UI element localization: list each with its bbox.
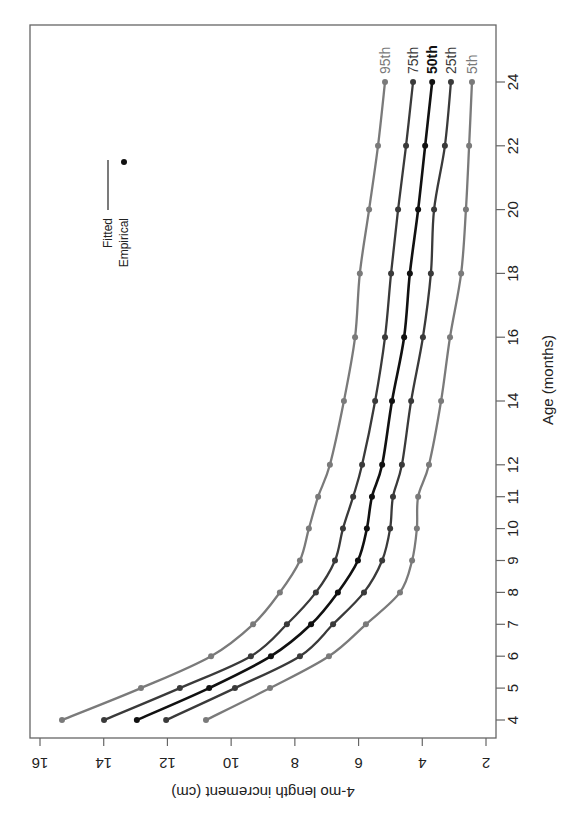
empirical-point-50th [268,653,274,659]
empirical-point-25th [448,79,454,85]
x-tick-label: 22 [504,137,521,154]
empirical-point-95th [327,462,333,468]
empirical-point-5th [463,207,469,213]
empirical-point-25th [431,207,437,213]
empirical-point-75th [359,462,365,468]
empirical-point-95th [297,558,303,564]
empirical-point-95th [341,398,347,404]
fitted-line-5th [206,82,472,720]
percentile-chart: 246810121416 456789101112141618202224 95… [0,0,567,824]
x-tick-label: 4 [504,716,521,724]
y-tick-label: 6 [354,755,362,772]
empirical-point-95th [366,207,372,213]
empirical-point-95th [375,143,381,149]
empirical-point-75th [388,270,394,276]
empirical-point-5th [447,334,453,340]
series-layer [59,79,475,723]
x-tick-label: 9 [504,556,521,564]
empirical-point-5th [438,398,444,404]
empirical-point-25th [399,462,405,468]
x-tick-label: 24 [504,74,521,91]
empirical-point-75th [403,143,409,149]
empirical-point-50th [206,685,212,691]
empirical-point-75th [410,79,416,85]
empirical-point-95th [357,270,363,276]
empirical-point-95th [277,589,283,595]
y-axis-title: 4-mo length increment (cm) [171,784,354,801]
empirical-point-50th [308,621,314,627]
legend-fitted-label: Fitted [101,218,115,248]
empirical-point-25th [420,334,426,340]
empirical-point-25th [297,653,303,659]
x-axis-title: Age (months) [539,335,556,425]
empirical-point-25th [428,270,434,276]
empirical-point-5th [363,621,369,627]
y-tick-label: 4 [418,755,426,772]
x-tick-label: 6 [504,652,521,660]
empirical-point-50th [364,526,370,532]
empirical-point-75th [177,685,183,691]
y-tick-label: 2 [482,755,490,772]
empirical-point-5th [397,589,403,595]
empirical-point-5th [326,653,332,659]
empirical-point-75th [101,717,107,723]
empirical-point-95th [382,79,388,85]
empirical-point-75th [350,494,356,500]
empirical-point-50th [429,79,435,85]
legend-empirical-swatch [121,159,127,165]
length-increment-axis: 246810121416 [32,738,491,772]
empirical-point-50th [422,143,428,149]
empirical-point-95th [59,717,65,723]
empirical-point-95th [315,494,321,500]
y-tick-label: 16 [32,755,49,772]
empirical-point-25th [387,526,393,532]
x-tick-label: 18 [504,265,521,282]
empirical-point-50th [389,398,395,404]
empirical-point-75th [332,558,338,564]
y-tick-label: 10 [223,755,240,772]
empirical-point-95th [352,334,358,340]
x-tick-label: 8 [504,588,521,596]
x-tick-label: 16 [504,329,521,346]
empirical-point-25th [163,717,169,723]
empirical-point-95th [250,621,256,627]
empirical-point-75th [372,398,378,404]
empirical-point-50th [355,558,361,564]
empirical-point-75th [340,526,346,532]
legend-empirical-label: Empirical [117,218,131,267]
empirical-point-5th [414,526,420,532]
empirical-point-75th [284,621,290,627]
empirical-point-75th [248,653,254,659]
x-tick-label: 10 [504,520,521,537]
empirical-point-25th [379,558,385,564]
percentile-label-95th: 95th [377,47,393,74]
empirical-point-95th [138,685,144,691]
empirical-point-50th [369,494,375,500]
x-tick-label: 20 [504,201,521,218]
empirical-point-50th [134,717,140,723]
empirical-point-25th [442,143,448,149]
empirical-point-25th [408,398,414,404]
x-tick-label: 14 [504,393,521,410]
empirical-point-5th [466,143,472,149]
y-tick-label: 12 [159,755,176,772]
empirical-point-5th [409,558,415,564]
empirical-point-25th [390,494,396,500]
empirical-point-25th [330,621,336,627]
empirical-point-95th [306,526,312,532]
x-tick-label: 11 [504,489,521,505]
empirical-point-5th [469,79,475,85]
percentile-label-5th: 5th [464,55,480,74]
x-tick-label: 5 [504,684,521,692]
percentile-label-50th: 50th [424,45,440,74]
percentile-labels: 95th75th50th25th5th [377,45,480,74]
empirical-point-75th [395,207,401,213]
x-tick-label: 12 [504,456,521,473]
empirical-point-5th [203,717,209,723]
percentile-label-25th: 25th [443,47,459,74]
empirical-point-75th [313,589,319,595]
empirical-point-25th [232,685,238,691]
y-tick-label: 8 [291,755,299,772]
empirical-point-25th [361,589,367,595]
empirical-point-5th [458,270,464,276]
